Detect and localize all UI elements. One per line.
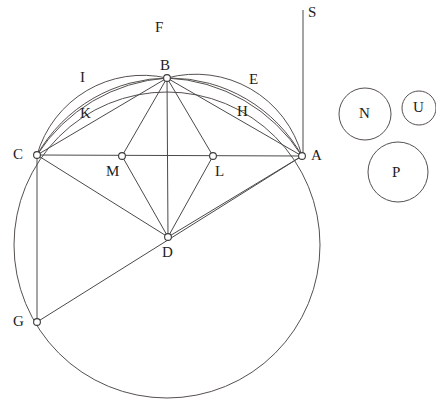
point-marker-C: [34, 152, 41, 159]
geometry-figure: A B C D G L M F I K E H S N U P: [0, 0, 436, 407]
point-marker-A: [299, 153, 306, 160]
segment-C-D: [37, 155, 168, 237]
segment-B-L: [167, 78, 213, 156]
line-label-S: S: [308, 5, 316, 20]
geometry-canvas: [0, 0, 436, 407]
arc-label-I: I: [80, 70, 85, 85]
segment-L-D: [168, 156, 213, 237]
point-label-M: M: [106, 164, 119, 179]
point-marker-D: [165, 234, 172, 241]
point-marker-L: [210, 153, 217, 160]
segment-B-D: [167, 78, 168, 237]
arc-label-E: E: [249, 72, 258, 87]
point-label-G: G: [13, 314, 24, 329]
segment-B-M: [122, 78, 167, 156]
point-marker-G: [34, 319, 41, 326]
point-marker-B: [164, 75, 171, 82]
point-label-L: L: [215, 164, 224, 179]
arc-label-F: F: [155, 20, 163, 35]
circle-label-P: P: [392, 165, 400, 180]
arc-label-K: K: [80, 106, 91, 121]
segment-C-A: [37, 155, 302, 156]
point-label-B: B: [160, 58, 170, 73]
arc-label-H: H: [237, 104, 248, 119]
point-label-A: A: [311, 148, 322, 163]
circle-label-N: N: [359, 106, 370, 121]
arc-F: [37, 78, 302, 156]
segment-B-A: [167, 78, 302, 156]
circle-label-U: U: [413, 100, 424, 115]
point-label-C: C: [13, 147, 23, 162]
segment-M-D: [122, 156, 168, 237]
point-label-D: D: [162, 245, 173, 260]
point-marker-M: [119, 153, 126, 160]
